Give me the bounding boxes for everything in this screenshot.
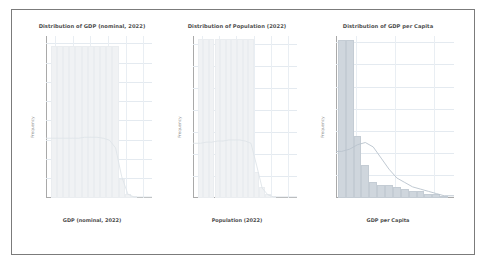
plot-area-gdp-per-capita: 01020304050607010⁴10⁵10⁶ xyxy=(336,36,454,198)
chart-title-gdp-per-capita: Distribution of GDP per Capita xyxy=(302,23,474,29)
plot-area-population: 02040608010012014010⁴10⁵10⁶10⁷10⁸10⁹ xyxy=(193,36,297,198)
kde-curve xyxy=(46,36,152,198)
y-axis-label-gdp: Frequency xyxy=(30,116,35,138)
plot-area-gdp: 02040608010012014016010⁷10⁸10⁹10¹⁰10¹¹10… xyxy=(46,36,152,198)
y-axis-label-population: Frequency xyxy=(177,116,182,138)
kde-curve xyxy=(193,36,297,198)
x-axis-label-gdp: GDP (nominal, 2022) xyxy=(14,217,170,223)
figure-frame: Distribution of GDP (nominal, 2022) Freq… xyxy=(11,9,475,255)
chart-panel-gdp-per-capita: Distribution of GDP per Capita Frequency… xyxy=(302,10,474,254)
chart-title-population: Distribution of Population (2022) xyxy=(159,23,315,29)
chart-panel-gdp: Distribution of GDP (nominal, 2022) Freq… xyxy=(14,10,170,254)
chart-panel-population: Distribution of Population (2022) Freque… xyxy=(159,10,315,254)
chart-title-gdp: Distribution of GDP (nominal, 2022) xyxy=(14,23,170,29)
y-axis-label-gdp-per-capita: Frequency xyxy=(320,116,325,138)
kde-curve xyxy=(336,36,454,198)
x-axis-label-gdp-per-capita: GDP per Capita xyxy=(302,217,474,223)
x-axis-label-population: Population (2022) xyxy=(159,217,315,223)
